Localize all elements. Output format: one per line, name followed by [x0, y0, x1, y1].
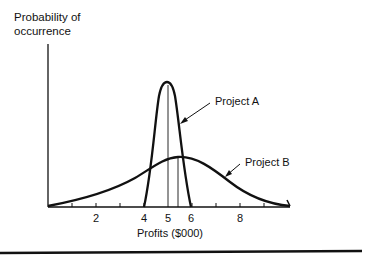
x-tick-label-6: 6	[188, 212, 194, 224]
bottom-rule	[0, 251, 362, 253]
project-b-label: Project B	[245, 156, 290, 168]
x-tick-label-2: 2	[93, 212, 99, 224]
project-a-label: Project A	[215, 95, 260, 107]
x-axis-label: Profits ($000)	[137, 227, 203, 239]
x-tick-label-8: 8	[237, 212, 243, 224]
x-tick-label-5: 5	[165, 212, 171, 224]
probability-chart: 2 4 5 6 8 Project A Project B Profits ($…	[0, 0, 366, 256]
x-tick-label-4: 4	[141, 212, 147, 224]
project-a-arrowhead	[180, 117, 188, 124]
project-a-curve	[144, 82, 191, 207]
